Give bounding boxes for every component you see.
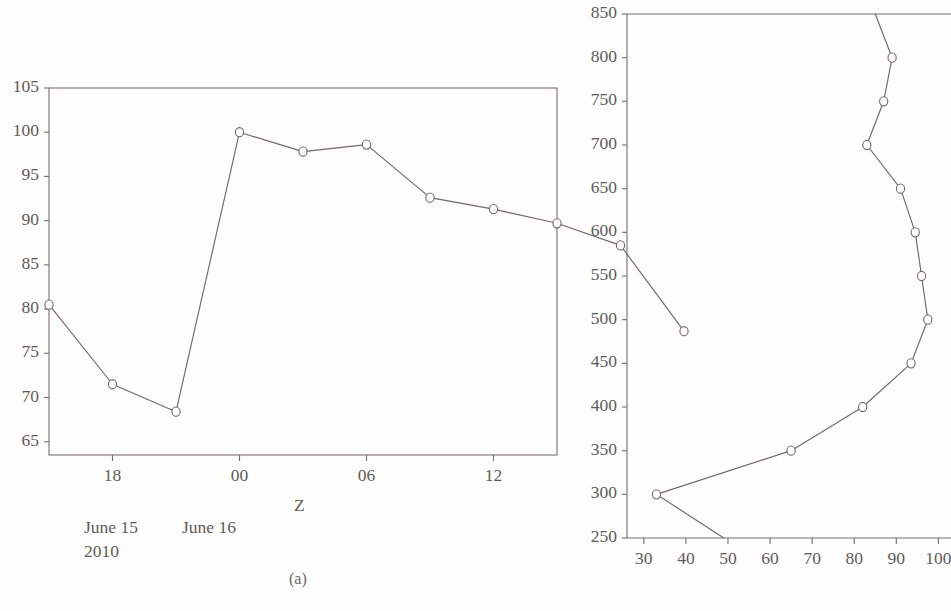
figure-container: 6570758085909510010518000612 Z June 15 2… — [0, 0, 951, 611]
panel-b-ytick-label: 750 — [591, 89, 618, 109]
panel-b-xtick-label: 40 — [677, 548, 695, 568]
panel-a-data-point — [172, 407, 180, 416]
panel-a-data-point — [553, 219, 561, 228]
panel-a-annotation-date-end: June 16 — [182, 517, 236, 538]
panel-a-ytick-label: 90 — [22, 209, 40, 229]
panel-a-ytick-label: 65 — [22, 430, 40, 450]
panel-b-data-point — [924, 315, 932, 324]
panel-b-data-point — [917, 271, 925, 280]
panel-a-xtick-label: 06 — [358, 465, 376, 485]
panel-a-annotation-date-start: June 15 — [84, 517, 138, 538]
panel-a-data-point — [299, 147, 307, 156]
panel-b-ytick-label: 300 — [591, 482, 618, 502]
panel-b-ytick-label: 850 — [591, 2, 618, 22]
panel-a-data-point — [362, 140, 370, 149]
panel-b-data-point — [863, 140, 871, 149]
panel-b-ytick-label: 650 — [591, 177, 618, 197]
panel-a-data-point — [45, 300, 53, 309]
panel-b-data-point — [888, 53, 896, 62]
panel-a-ytick-label: 80 — [22, 297, 40, 317]
panel-b-ytick-label: 700 — [591, 133, 618, 153]
panel-b-data-point — [911, 228, 919, 237]
panel-a-xaxis-label: Z — [294, 495, 305, 516]
panel-a-data-point — [489, 205, 497, 214]
panel-a-ytick-label: 70 — [22, 386, 40, 406]
panel-a-caption: (a) — [289, 570, 307, 588]
panel-b-xtick-label: 100 — [925, 548, 951, 568]
panel-b-data-point — [652, 490, 660, 499]
panel-b-series-line — [656, 14, 927, 538]
panel-b-xtick-label: 90 — [888, 548, 906, 568]
panel-a-data-point — [235, 128, 243, 137]
panel-b-ytick-label: 400 — [591, 395, 618, 415]
panel-a-ytick-label: 85 — [22, 253, 40, 273]
panel-b-plot: 2503003504004505005506006507007508008503… — [580, 0, 951, 611]
panel-b-xtick-label: 50 — [719, 548, 737, 568]
panel-b-data-point — [787, 446, 795, 455]
panel-b-data-point — [907, 359, 915, 368]
panel-a-ytick-label: 95 — [22, 164, 40, 184]
panel-a-xtick-label: 00 — [231, 465, 249, 485]
panel-b-ytick-label: 600 — [591, 220, 618, 240]
panel-b-data-point — [880, 97, 888, 106]
panel-b-xtick-label: 80 — [845, 548, 863, 568]
panel-b-ytick-label: 450 — [591, 351, 618, 371]
panel-b-xtick-label: 30 — [635, 548, 653, 568]
panel-b-data-point — [859, 402, 867, 411]
panel-a-annotation-year: 2010 — [84, 541, 119, 562]
panel-a: 6570758085909510010518000612 Z June 15 2… — [0, 0, 600, 611]
panel-b-ytick-label: 350 — [591, 439, 618, 459]
panel-a-xtick-label: 12 — [485, 465, 503, 485]
panel-b-data-point — [896, 184, 904, 193]
panel-b-ytick-label: 550 — [591, 264, 618, 284]
panel-b-ytick-label: 250 — [591, 526, 618, 546]
panel-b: 2503003504004505005506006507007508008503… — [580, 0, 951, 611]
panel-b-ytick-label: 800 — [591, 46, 618, 66]
panel-b-xtick-label: 70 — [803, 548, 821, 568]
panel-a-data-point — [108, 380, 116, 389]
panel-a-data-point — [426, 193, 434, 202]
panel-b-ytick-label: 500 — [591, 308, 618, 328]
panel-a-ytick-label: 100 — [13, 120, 40, 140]
panel-a-ytick-label: 105 — [13, 76, 40, 96]
panel-a-xtick-label: 18 — [104, 465, 122, 485]
panel-a-frame — [49, 88, 557, 455]
panel-a-ytick-label: 75 — [22, 341, 40, 361]
panel-b-xtick-label: 60 — [761, 548, 779, 568]
